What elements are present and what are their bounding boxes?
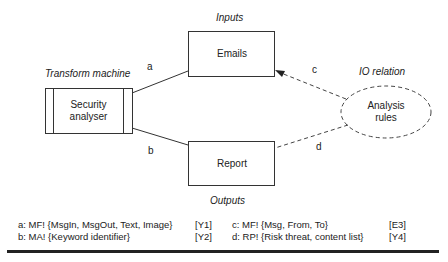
legend-d: d: RP! {Risk threat, content list} xyxy=(232,231,363,243)
edge-a-label: a xyxy=(147,61,153,73)
legend-d-text: d: RP! {Risk threat, content list} xyxy=(232,231,363,242)
legend-b-tag: [Y2] xyxy=(195,231,212,243)
legend-a: a: MF! {MsgIn, MsgOut, Text, Image} xyxy=(18,219,173,231)
report-label: Report xyxy=(189,158,275,170)
emails-label: Emails xyxy=(189,48,275,60)
outputs-label: Outputs xyxy=(210,195,245,207)
edge-d-label: d xyxy=(316,141,322,153)
bottom-rule-divider xyxy=(7,250,439,253)
edge-c-label: c xyxy=(312,64,317,76)
security-analyser-line2: analyser xyxy=(54,111,123,123)
edge-b-label: b xyxy=(148,145,154,157)
io-relation-label: IO relation xyxy=(359,66,405,78)
edge-b-line xyxy=(132,128,188,145)
legend-c: c: MF! {Msg, From, To} xyxy=(232,219,328,231)
edge-d-line xyxy=(275,125,348,148)
transform-machine-label: Transform machine xyxy=(45,68,130,80)
legend-c-tag: [E3] xyxy=(389,219,406,231)
security-analyser-label: Security analyser xyxy=(54,99,123,123)
security-analyser-line1: Security xyxy=(54,99,123,111)
legend-d-tag: [Y4] xyxy=(389,231,406,243)
legend-c-text: c: MF! {Msg, From, To} xyxy=(232,219,328,230)
legend-a-text: a: MF! {MsgIn, MsgOut, Text, Image} xyxy=(18,219,173,230)
analysis-rules-line2: rules xyxy=(351,112,421,124)
analysis-rules-line1: Analysis xyxy=(351,100,421,112)
legend-b-text: b: MA! {Keyword identifier} xyxy=(18,231,130,242)
edge-a-line xyxy=(132,71,188,93)
arrowhead-icon xyxy=(275,70,285,77)
legend-b: b: MA! {Keyword identifier} xyxy=(18,231,130,243)
inputs-label: Inputs xyxy=(216,12,243,24)
legend-a-tag: [Y1] xyxy=(195,219,212,231)
edge-c-line xyxy=(281,73,346,99)
analysis-rules-label: Analysis rules xyxy=(351,100,421,124)
